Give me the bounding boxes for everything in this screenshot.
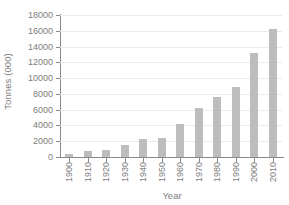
y-tick-mark [56,47,60,48]
y-tick-label: 18000 [28,10,53,20]
gridline [60,110,282,111]
x-axis-tick-labels: 1900191019201930194019501960197019801990… [60,158,284,190]
gridline [60,141,282,142]
bar [121,145,129,157]
gridline [60,15,282,16]
x-tick-label: 2010 [256,162,289,192]
x-tick-label-text: 2010 [268,162,278,182]
gridline [60,125,282,126]
bar [65,154,73,157]
bar [232,87,240,157]
gridline [60,94,282,95]
gridline [60,78,282,79]
plot-area [60,15,282,157]
bar [195,108,203,157]
y-tick-mark [56,125,60,126]
y-tick-label: 8000 [33,89,53,99]
gridline [60,31,282,32]
bar [176,124,184,157]
bar [213,97,221,157]
y-tick-label: 14000 [28,42,53,52]
gridline [60,62,282,63]
y-tick-label: 4000 [33,120,53,130]
y-tick-mark [56,15,60,16]
x-axis-title: Year [60,190,284,201]
gridline [60,47,282,48]
y-tick-mark [56,110,60,111]
y-tick-label: 6000 [33,105,53,115]
bar [139,139,147,157]
y-axis-title-text: Tonnes (000) [2,53,13,110]
y-axis-title: Tonnes (000) [0,0,14,162]
y-tick-mark [56,141,60,142]
y-tick-mark [56,62,60,63]
bar [102,150,110,157]
y-tick-label: 16000 [28,26,53,36]
y-tick-mark [56,94,60,95]
bar [158,138,166,157]
bar-chart: Tonnes (000) 020004000600080001000012000… [0,0,289,205]
bar [269,29,277,157]
y-tick-label: 12000 [28,57,53,67]
y-axis-tick-labels: 0200040006000800010000120001400016000180… [14,0,56,205]
bar [84,151,92,157]
y-tick-mark [56,31,60,32]
y-tick-label: 10000 [28,73,53,83]
y-tick-label: 2000 [33,136,53,146]
y-tick-mark [56,78,60,79]
bar [250,53,258,157]
y-tick-label: 0 [48,152,53,162]
